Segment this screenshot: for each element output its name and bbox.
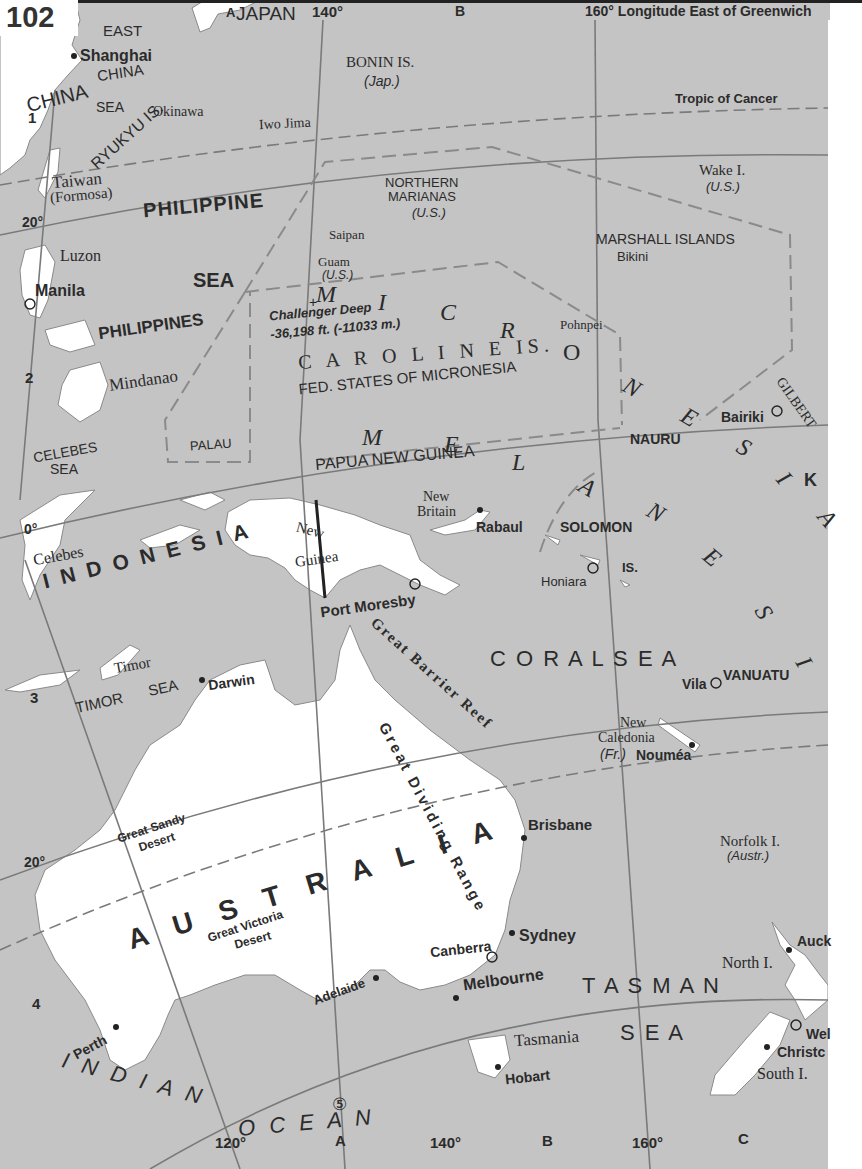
island-north: North I.	[722, 955, 773, 971]
country-solomon-is: IS.	[622, 561, 638, 574]
melanesia-letter-e: E	[444, 432, 459, 456]
city-rabaul: Rabaul	[476, 520, 523, 534]
grid-col-a-bottom: A	[335, 1133, 346, 1148]
longitude-140-top: 140°	[312, 4, 343, 19]
island-norfolk: Norfolk I.	[720, 834, 780, 849]
city-christchurch: Christc	[777, 1045, 825, 1059]
grid-row-3: 3	[30, 690, 38, 705]
grid-col-a-top: A	[226, 6, 235, 19]
header-longitude: 160° Longitude East of Greenwich	[585, 4, 812, 18]
island-guam: Guam	[318, 255, 350, 268]
page-number: 102	[0, 0, 78, 36]
east-china-sea-sea: SEA	[96, 100, 124, 114]
latitude-20n: 20°	[22, 215, 43, 229]
island-northern-marianas-2: MARIANAS	[388, 190, 456, 203]
city-noumea: Nouméa	[636, 748, 691, 762]
island-wake: Wake I.	[699, 163, 745, 178]
east-china-sea-east: EAST	[103, 23, 142, 38]
grid-row-4: 4	[32, 996, 40, 1011]
celebes-sea-sea: SEA	[50, 462, 78, 476]
island-new-caledonia-owner: (Fr.)	[600, 747, 626, 761]
kiribati-k-label: K	[804, 471, 817, 489]
micronesia-letter-c: C	[440, 300, 456, 324]
island-new-britain-2: Britain	[417, 505, 456, 519]
island-new-caledonia-2: Caledonia	[598, 731, 655, 745]
city-shanghai: Shanghai	[80, 48, 152, 64]
melanesia-letter-m: M	[362, 425, 382, 449]
island-bonin-owner: (Jap.)	[364, 74, 400, 88]
city-bairiki: Bairiki	[721, 410, 764, 424]
city-honiara: Honiara	[541, 575, 587, 588]
latitude-0: 0°	[24, 522, 37, 536]
island-iwo-jima: Iwo Jima	[259, 116, 311, 133]
island-guam-owner: (U.S.)	[322, 269, 353, 281]
tropic-of-cancer-label: Tropic of Cancer	[675, 92, 778, 105]
city-sydney: Sydney	[519, 928, 576, 944]
melanesia-letter-l: L	[512, 450, 525, 474]
island-bonin: BONIN IS.	[346, 55, 414, 70]
micronesia-letter-o: O	[563, 340, 580, 364]
latitude-20s: 20°	[24, 855, 45, 869]
coral-sea: C O R A L S E A	[490, 648, 678, 670]
island-pohnpei: Pohnpei	[560, 318, 603, 331]
country-nauru: NAURU	[630, 432, 681, 446]
city-manila: Manila	[35, 283, 85, 299]
island-norfolk-owner: (Austr.)	[727, 849, 769, 862]
island-new-caledonia-1: New	[620, 716, 646, 730]
city-auckland: Auck	[797, 934, 831, 948]
city-brisbane: Brisbane	[528, 817, 592, 832]
island-northern-marianas-owner: (U.S.)	[412, 206, 446, 219]
longitude-140-bottom: 140°	[430, 1135, 461, 1150]
country-solomon: SOLOMON	[560, 520, 632, 534]
island-tasmania: Tasmania	[513, 1028, 579, 1049]
city-wellington: Wel	[806, 1027, 831, 1041]
grid-col-b-top: B	[455, 4, 465, 18]
micronesia-letter-i: I	[378, 290, 386, 314]
island-bikini: Bikini	[617, 250, 648, 263]
city-vila: Vila	[682, 677, 707, 691]
country-palau: PALAU	[190, 437, 232, 453]
island-northern-marianas-1: NORTHERN	[385, 176, 458, 189]
grid-col-b-bottom: B	[542, 1133, 553, 1148]
tasman-sea-sea: S E A	[620, 1022, 685, 1044]
country-japan: JAPAN	[236, 4, 296, 23]
tasman-sea-tasman: T A S M A N	[582, 975, 721, 997]
island-luzon: Luzon	[60, 248, 101, 264]
country-vanuatu: VANUATU	[723, 668, 789, 682]
longitude-160-bottom: 160°	[632, 1135, 663, 1150]
grid-col-c-bottom: C	[738, 1131, 749, 1146]
right-margin	[828, 20, 862, 1169]
country-marshall-islands: MARSHALL ISLANDS	[596, 232, 735, 246]
island-south: South I.	[757, 1066, 808, 1082]
philippine-sea-sea: SEA	[193, 270, 234, 290]
island-okinawa: Okinawa	[153, 105, 204, 119]
island-new-britain-1: New	[423, 490, 449, 504]
island-wake-owner: (U.S.)	[706, 180, 740, 193]
grid-row-2: 2	[25, 370, 33, 385]
island-saipan: Saipan	[329, 228, 364, 241]
